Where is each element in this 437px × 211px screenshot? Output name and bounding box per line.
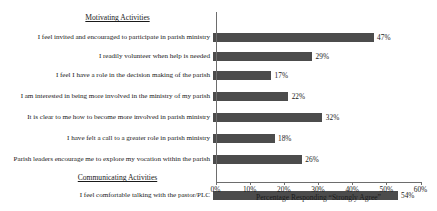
bar-row: I am interested in being more involved i… [0, 86, 437, 107]
bar-track: 22% [213, 86, 437, 107]
bar[interactable] [213, 33, 374, 42]
category-label: It is clear to me how to become more inv… [0, 113, 213, 121]
bar[interactable] [213, 113, 322, 122]
chart-rows: Motivating ActivitiesI feel invited and … [0, 10, 437, 204]
bar[interactable] [213, 155, 302, 164]
bar-chart: Motivating ActivitiesI feel invited and … [0, 0, 437, 211]
bar-row: I feel invited and encouraged to partici… [0, 27, 437, 48]
bar-value-label: 32% [326, 113, 339, 122]
bar-track: 29% [213, 48, 437, 65]
bar-row: It is clear to me how to become more inv… [0, 107, 437, 128]
category-label: Parish leaders encourage me to explore m… [0, 155, 213, 163]
bar[interactable] [213, 92, 288, 101]
bar-value-label: 18% [278, 134, 291, 143]
section-header-row: Motivating Activities [0, 10, 437, 27]
bar-track: 47% [213, 27, 437, 48]
bar-row: I feel I have a role in the decision mak… [0, 65, 437, 86]
bar-value-label: 26% [305, 155, 318, 164]
bar[interactable] [213, 71, 271, 80]
bar-track: 18% [213, 128, 437, 149]
bar-value-label: 17% [275, 71, 288, 80]
bar[interactable] [213, 52, 312, 61]
empty-bar-slot [213, 10, 437, 27]
bar-value-label: 29% [316, 52, 329, 61]
category-label: I have felt a call to a greater role in … [0, 134, 213, 142]
category-label: I am interested in being more involved i… [0, 92, 213, 100]
bar-row: I readily volunteer when help is needed2… [0, 48, 437, 65]
bar-row: Parish leaders encourage me to explore m… [0, 149, 437, 170]
bar-value-label: 22% [292, 92, 305, 101]
bar-track: 26% [213, 149, 437, 170]
bar[interactable] [213, 134, 275, 143]
section-header-label: Communicating Activities [0, 174, 213, 182]
category-label: I feel I have a role in the decision mak… [0, 71, 213, 79]
category-label: I feel comfortable talking with the past… [0, 191, 213, 199]
section-header-label: Motivating Activities [0, 14, 213, 22]
bar-row: I have felt a call to a greater role in … [0, 128, 437, 149]
x-axis-label: Percentage Responding “Strongly Agree” [216, 193, 421, 202]
y-axis-line [216, 12, 217, 182]
category-label: I feel invited and encouraged to partici… [0, 33, 213, 41]
bar-track: 17% [213, 65, 437, 86]
bar-value-label: 47% [377, 33, 390, 42]
category-label: I readily volunteer when help is needed [0, 52, 213, 60]
bar-track: 32% [213, 107, 437, 128]
